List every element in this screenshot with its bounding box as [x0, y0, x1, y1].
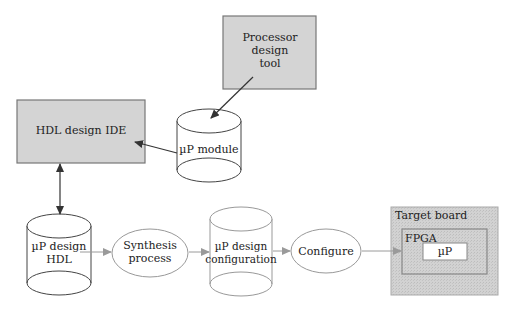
processor-tool-label-3: tool	[259, 57, 281, 70]
up-design-hdl-label-2: HDL	[46, 253, 72, 266]
configure-ellipse: Configure	[291, 229, 361, 273]
synthesis-label-1: Synthesis	[123, 239, 177, 252]
hdl-ide-label: HDL design IDE	[36, 124, 127, 137]
design-flow-diagram: Processor design tool HDL design IDE µP …	[0, 0, 515, 313]
up-box: µP	[423, 243, 467, 260]
up-module-cylinder: µP module	[177, 109, 241, 182]
up-design-config-label-1: µP design	[215, 240, 268, 252]
up-design-config-label-2: configuration	[205, 253, 277, 265]
up-design-hdl-label-1: µP design	[32, 240, 87, 253]
up-module-label: µP module	[179, 143, 238, 156]
hdl-design-ide-box: HDL design IDE	[17, 100, 145, 163]
up-design-config-cylinder: µP design configuration	[205, 207, 277, 296]
up-label: µP	[438, 245, 453, 258]
processor-tool-label-2: design	[252, 44, 289, 57]
configure-label: Configure	[298, 245, 353, 258]
processor-design-tool-box: Processor design tool	[223, 16, 316, 89]
up-design-hdl-cylinder: µP design HDL	[27, 214, 91, 295]
target-board-label: Target board	[395, 209, 467, 222]
synthesis-process-ellipse: Synthesis process	[112, 229, 188, 277]
processor-tool-label-1: Processor	[242, 31, 298, 44]
synthesis-label-2: process	[129, 252, 172, 265]
